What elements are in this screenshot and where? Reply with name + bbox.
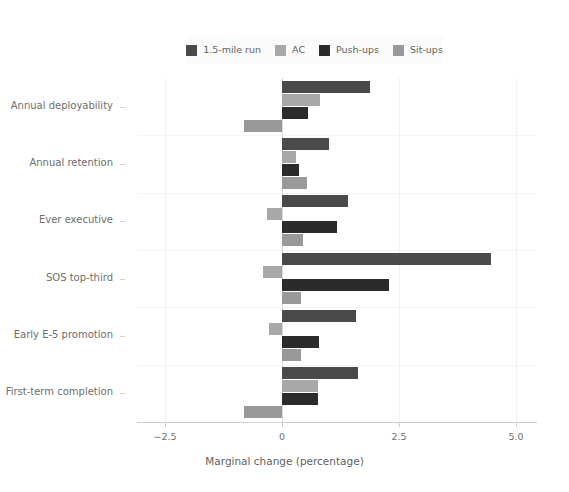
- bar-row: [137, 406, 537, 418]
- legend-item[interactable]: AC: [275, 45, 305, 56]
- y-axis-tick-mark: [120, 164, 125, 165]
- horizontal-gridline: [137, 193, 537, 194]
- y-axis-tick-mark: [120, 279, 125, 280]
- bar-group: [137, 138, 537, 190]
- horizontal-gridline: [137, 307, 537, 308]
- bar[interactable]: [282, 336, 319, 348]
- bar-row: [137, 177, 537, 189]
- bar-row: [137, 393, 537, 405]
- horizontal-gridline: [137, 250, 537, 251]
- y-axis-tick-mark: [120, 221, 125, 222]
- bar[interactable]: [282, 138, 329, 150]
- bar[interactable]: [244, 406, 282, 418]
- bar-group: [137, 367, 537, 419]
- bar-row: [137, 266, 537, 278]
- bar-row: [137, 336, 537, 348]
- bar-row: [137, 367, 537, 379]
- bar[interactable]: [282, 151, 296, 163]
- bar[interactable]: [267, 208, 282, 220]
- legend-item-label: Sit-ups: [410, 45, 443, 55]
- bar-group: [137, 310, 537, 362]
- y-axis-tick-label: Annual deployability: [11, 101, 113, 111]
- x-axis-line: [137, 422, 537, 423]
- bar[interactable]: [282, 393, 318, 405]
- legend-item[interactable]: Push-ups: [319, 45, 379, 56]
- legend-item-label: 1.5-mile run: [203, 45, 261, 55]
- bar[interactable]: [244, 120, 282, 132]
- y-axis-tick-mark: [120, 393, 125, 394]
- bar[interactable]: [269, 323, 282, 335]
- bar-row: [137, 323, 537, 335]
- bar-group: [137, 81, 537, 133]
- bar-row: [137, 120, 537, 132]
- bar-row: [137, 164, 537, 176]
- bar[interactable]: [282, 292, 301, 304]
- y-axis-tick-label: Early E-5 promotion: [14, 330, 113, 340]
- legend-item-label: Push-ups: [336, 45, 379, 55]
- bar[interactable]: [263, 266, 282, 278]
- bar-row: [137, 195, 537, 207]
- x-axis-tick-label: 5.0: [508, 432, 523, 442]
- x-axis-tick-label: −2.5: [154, 432, 177, 442]
- bar-row: [137, 349, 537, 361]
- bar-row: [137, 221, 537, 233]
- bar-row: [137, 208, 537, 220]
- y-axis-tick-label: First-term completion: [6, 387, 113, 397]
- bar[interactable]: [282, 221, 337, 233]
- legend-swatch-icon: [393, 45, 404, 56]
- bar[interactable]: [282, 279, 389, 291]
- bar-row: [137, 107, 537, 119]
- x-axis-title: Marginal change (percentage): [0, 455, 569, 467]
- x-axis-tick-mark: [516, 422, 517, 427]
- bar-row: [137, 138, 537, 150]
- bar[interactable]: [282, 234, 303, 246]
- bar[interactable]: [282, 310, 356, 322]
- bar[interactable]: [282, 107, 308, 119]
- bar-row: [137, 310, 537, 322]
- bar-row: [137, 380, 537, 392]
- y-axis-tick-label: Ever executive: [39, 215, 113, 225]
- legend-swatch-icon: [275, 45, 286, 56]
- horizontal-gridline: [137, 135, 537, 136]
- bar[interactable]: [282, 164, 299, 176]
- bar[interactable]: [282, 253, 491, 265]
- x-axis-tick-mark: [282, 422, 283, 427]
- bar[interactable]: [282, 349, 301, 361]
- x-axis-tick-mark: [165, 422, 166, 427]
- legend-swatch-icon: [186, 45, 197, 56]
- bar-row: [137, 151, 537, 163]
- bar-chart: 1.5-mile runACPush-upsSit-ups Annual dep…: [0, 0, 569, 492]
- y-axis-tick-mark: [120, 107, 125, 108]
- bar-group: [137, 195, 537, 247]
- legend-item[interactable]: Sit-ups: [393, 45, 443, 56]
- bar[interactable]: [282, 177, 307, 189]
- legend-item[interactable]: 1.5-mile run: [186, 45, 261, 56]
- bar-row: [137, 292, 537, 304]
- chart-legend: 1.5-mile runACPush-upsSit-ups: [186, 36, 443, 64]
- bar-row: [137, 81, 537, 93]
- bar-row: [137, 279, 537, 291]
- bar-row: [137, 94, 537, 106]
- legend-swatch-icon: [319, 45, 330, 56]
- bar-row: [137, 253, 537, 265]
- x-axis-tick-mark: [399, 422, 400, 427]
- bar[interactable]: [282, 367, 358, 379]
- bar-row: [137, 234, 537, 246]
- bar[interactable]: [282, 81, 370, 93]
- bar[interactable]: [282, 94, 320, 106]
- legend-item-label: AC: [292, 45, 305, 55]
- y-axis-tick-label: SOS top-third: [46, 273, 113, 283]
- bar-group: [137, 253, 537, 305]
- x-axis-tick-label: 2.5: [391, 432, 406, 442]
- x-axis-tick-label: 0: [279, 432, 285, 442]
- bar[interactable]: [282, 380, 318, 392]
- y-axis-tick-mark: [120, 336, 125, 337]
- plot-area: [137, 78, 537, 422]
- horizontal-gridline: [137, 365, 537, 366]
- y-axis-labels: Annual deployabilityAnnual retentionEver…: [0, 78, 125, 422]
- y-axis-tick-label: Annual retention: [29, 158, 113, 168]
- bar[interactable]: [282, 195, 347, 207]
